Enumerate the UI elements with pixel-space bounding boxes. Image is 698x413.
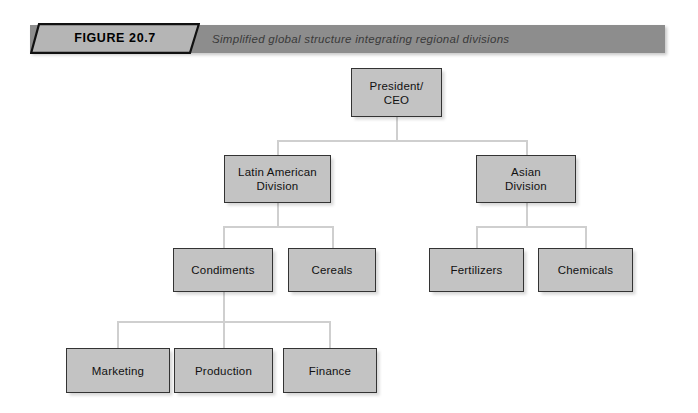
node-chemicals[interactable]: Chemicals (538, 248, 633, 292)
node-president-ceo[interactable]: President/ CEO (351, 68, 442, 117)
node-cereals[interactable]: Cereals (288, 248, 376, 292)
connector-to-production (223, 321, 225, 348)
connector-to-cereals (332, 226, 334, 248)
node-asian-division[interactable]: Asian Division (476, 155, 576, 203)
node-label: Chemicals (558, 263, 613, 277)
node-condiments[interactable]: Condiments (173, 248, 273, 292)
connector-to-fertilizers (476, 226, 478, 248)
node-label: President/ CEO (370, 79, 424, 107)
connector-to-finance (329, 321, 331, 348)
connector-asian-down (526, 203, 528, 227)
figure-page: Simplified global structure integrating … (0, 0, 698, 413)
node-finance[interactable]: Finance (283, 348, 377, 393)
connector-ceo-down (396, 117, 398, 141)
node-label: Production (195, 364, 252, 378)
node-fertilizers[interactable]: Fertilizers (429, 248, 524, 292)
connector-to-latin (277, 140, 279, 155)
node-label: Finance (309, 364, 351, 378)
node-label: Condiments (191, 263, 254, 277)
node-label: Fertilizers (450, 263, 502, 277)
node-label: Marketing (92, 364, 144, 378)
connector-latin-down (277, 203, 279, 227)
node-label: Cereals (311, 263, 352, 277)
node-label: Asian Division (505, 165, 547, 193)
connector-level2-bus (277, 140, 527, 142)
node-production[interactable]: Production (174, 348, 273, 393)
connector-to-asian (526, 140, 528, 155)
connector-to-marketing (117, 321, 119, 348)
connector-latin-bus (223, 226, 333, 228)
connector-to-condiments (223, 226, 225, 248)
connector-to-chemicals (585, 226, 587, 248)
connector-condiments-down (223, 292, 225, 322)
node-latin-american-division[interactable]: Latin American Division (224, 155, 331, 203)
org-chart: President/ CEO Latin American Division A… (0, 0, 698, 413)
connector-asian-bus (476, 226, 586, 228)
node-marketing[interactable]: Marketing (66, 348, 170, 393)
node-label: Latin American Division (238, 165, 317, 193)
